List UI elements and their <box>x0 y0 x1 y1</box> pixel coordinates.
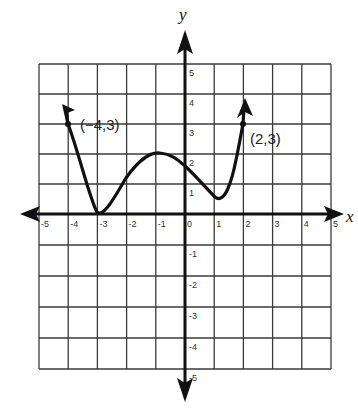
x-tick-label: 1 <box>216 219 221 229</box>
y-tick-label: -3 <box>189 311 197 321</box>
x-tick-label: 0 <box>187 219 192 229</box>
point-2-3 <box>240 121 246 127</box>
y-tick-label: 1 <box>189 188 194 198</box>
y-axis-label: y <box>177 5 187 24</box>
point-label-right: (2,3) <box>250 130 281 147</box>
x-tick-label: -4 <box>70 219 78 229</box>
x-axis-label: x <box>345 207 354 226</box>
y-tick-label: -2 <box>189 280 197 290</box>
x-tick-label: 3 <box>275 219 280 229</box>
y-tick-label: 4 <box>189 98 194 108</box>
point-label-left: (−4,3) <box>80 116 120 133</box>
x-tick-label: 4 <box>304 219 309 229</box>
x-tick-label: -2 <box>129 219 137 229</box>
point-neg4-3 <box>65 121 71 127</box>
x-tick-label: -3 <box>99 219 107 229</box>
x-tick-label: 5 <box>333 219 338 229</box>
x-tick-label: 2 <box>245 219 250 229</box>
y-tick-label: 2 <box>189 158 194 168</box>
x-tick-label: -1 <box>158 219 166 229</box>
y-tick-label: 5 <box>189 68 194 78</box>
y-tick-label: 3 <box>189 128 194 138</box>
y-tick-label: -1 <box>189 249 197 259</box>
x-tick-label: -5 <box>41 219 49 229</box>
y-tick-label: -4 <box>189 342 197 352</box>
coordinate-plane: -5-4-3-2-101234554321-1-2-3-4-5 x y (−4,… <box>0 0 358 414</box>
